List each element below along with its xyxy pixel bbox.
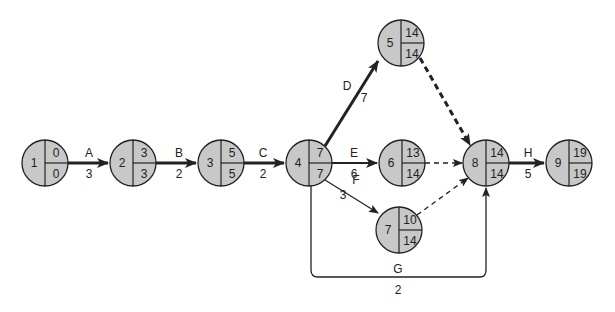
- node-id: 3: [207, 156, 214, 170]
- duration-F: 3: [340, 188, 347, 202]
- label-G: G: [393, 262, 402, 276]
- label-A: A: [85, 146, 93, 160]
- node-earliest: 14: [405, 26, 419, 40]
- node-earliest: 7: [317, 146, 324, 160]
- activity-labels: A 3 B 2 C 2 D 7 E 6 F 3 G 2 H 5: [85, 79, 532, 297]
- node-7: 7 10 14: [376, 207, 422, 253]
- node-1: 1 0 0: [22, 140, 68, 186]
- node-earliest: 0: [53, 146, 60, 160]
- node-latest: 14: [490, 167, 504, 181]
- network-diagram: A 3 B 2 C 2 D 7 E 6 F 3 G 2 H 5 1 0 0 2 …: [0, 0, 615, 312]
- node-latest: 19: [573, 167, 587, 181]
- node-latest: 0: [53, 167, 60, 181]
- node-earliest: 5: [229, 146, 236, 160]
- node-id: 7: [385, 223, 392, 237]
- label-D: D: [343, 79, 352, 93]
- node-latest: 5: [229, 167, 236, 181]
- node-earliest: 3: [141, 146, 148, 160]
- label-B: B: [175, 146, 183, 160]
- node-id: 5: [387, 36, 394, 50]
- arrow-D: [325, 61, 378, 146]
- label-F: F: [352, 173, 359, 187]
- node-9: 9 19 19: [546, 140, 592, 186]
- duration-G: 2: [395, 283, 402, 297]
- duration-A: 3: [86, 167, 93, 181]
- node-latest: 14: [403, 234, 417, 248]
- node-id: 8: [472, 156, 479, 170]
- node-id: 6: [388, 156, 395, 170]
- node-latest: 14: [406, 167, 420, 181]
- label-C: C: [259, 146, 268, 160]
- node-5: 5 14 14: [378, 20, 424, 66]
- node-6: 6 13 14: [379, 140, 425, 186]
- node-earliest: 13: [406, 146, 420, 160]
- node-earliest: 10: [403, 213, 417, 227]
- dummy-5-8: [420, 58, 470, 145]
- node-3: 3 5 5: [198, 140, 244, 186]
- label-H: H: [524, 146, 533, 160]
- duration-H: 5: [525, 167, 532, 181]
- duration-C: 2: [260, 167, 267, 181]
- duration-B: 2: [176, 167, 183, 181]
- node-earliest: 19: [573, 146, 587, 160]
- node-id: 1: [31, 156, 38, 170]
- node-2: 2 3 3: [110, 140, 156, 186]
- node-latest: 3: [141, 167, 148, 181]
- node-id: 4: [295, 156, 302, 170]
- dummy-7-8: [417, 178, 468, 215]
- node-id: 2: [119, 156, 126, 170]
- node-id: 9: [555, 156, 562, 170]
- duration-D: 7: [361, 91, 368, 105]
- nodes: 1 0 0 2 3 3 3 5 5 4 7 7: [22, 20, 592, 253]
- label-E: E: [350, 146, 358, 160]
- node-8: 8 14 14: [463, 140, 509, 186]
- node-latest: 7: [317, 167, 324, 181]
- node-latest: 14: [405, 47, 419, 61]
- node-4: 4 7 7: [286, 140, 332, 186]
- node-earliest: 14: [490, 146, 504, 160]
